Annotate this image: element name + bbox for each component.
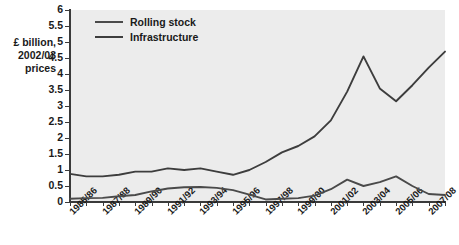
legend-line-icon-infrastructure: [95, 36, 123, 38]
series-line-infrastructure: [70, 52, 445, 177]
legend-label-rolling-stock: Rolling stock: [130, 16, 196, 28]
line-chart: £ billion, 2002/03 prices 00.511.522.533…: [0, 0, 459, 245]
legend-line-icon-rolling-stock: [95, 21, 123, 23]
legend: Rolling stock Infrastructure: [95, 14, 198, 44]
legend-label-infrastructure: Infrastructure: [130, 31, 198, 43]
legend-item-infrastructure: Infrastructure: [95, 29, 198, 44]
legend-item-rolling-stock: Rolling stock: [95, 14, 198, 29]
series-line-rolling-stock: [70, 176, 445, 199]
series-layer: [0, 0, 459, 245]
